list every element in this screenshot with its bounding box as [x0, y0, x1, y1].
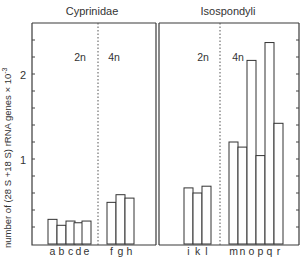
bar-o — [247, 60, 256, 244]
category-label-k: k — [195, 245, 201, 257]
bar-b — [57, 225, 66, 244]
category-label-n: n — [240, 245, 246, 257]
y-tick-label-1: 1 — [20, 154, 26, 166]
y-tick-label-2: 2 — [20, 69, 26, 81]
category-label-e: e — [84, 245, 90, 257]
bar-k — [193, 193, 202, 244]
bars — [48, 43, 283, 244]
category-label-b: b — [59, 245, 65, 257]
bar-i — [184, 188, 193, 244]
bar-a — [48, 219, 57, 244]
bar-g — [116, 195, 125, 244]
category-label-p: p — [258, 245, 264, 257]
category-labels: abcdefghiklmnopqr — [50, 245, 281, 257]
group-title-cyprinidae: Cyprinidae — [66, 5, 119, 17]
bar-m — [229, 142, 238, 244]
bar-n — [238, 147, 247, 244]
bar-l — [202, 186, 211, 244]
category-label-q: q — [267, 245, 273, 257]
category-label-c: c — [68, 245, 73, 257]
bar-e — [82, 221, 91, 244]
category-label-f: f — [110, 245, 113, 257]
y-axis-label: number of (28 S +18 S) rRNA genes × 10-3 — [1, 67, 13, 248]
bar-r — [274, 123, 283, 244]
category-label-g: g — [118, 245, 124, 257]
bar-p — [256, 156, 265, 244]
ploidy-label-4n-right: 4n — [232, 51, 244, 63]
category-label-o: o — [249, 245, 255, 257]
category-label-m: m — [229, 245, 238, 257]
ploidy-label-2n-left: 2n — [74, 51, 86, 63]
bar-q — [265, 43, 274, 244]
category-label-h: h — [127, 245, 133, 257]
category-label-i: i — [187, 245, 189, 257]
category-label-r: r — [277, 245, 281, 257]
bar-h — [125, 198, 134, 244]
category-label-a: a — [50, 245, 56, 257]
ploidy-label-4n-left: 4n — [108, 51, 120, 63]
panel-cyprinidae — [32, 23, 156, 245]
rrna-gene-bar-chart: number of (28 S +18 S) rRNA genes × 10-3… — [0, 0, 306, 258]
group-title-isospondyli: Isospondyli — [200, 5, 255, 17]
bar-f — [107, 202, 116, 244]
ploidy-label-2n-right: 2n — [197, 51, 209, 63]
category-label-l: l — [205, 245, 207, 257]
category-label-d: d — [76, 245, 82, 257]
